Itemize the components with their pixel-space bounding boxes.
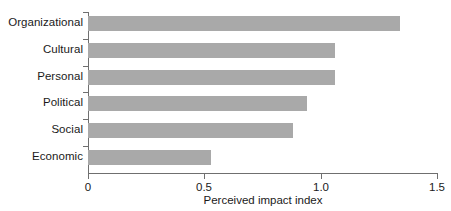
bar-social — [88, 123, 293, 138]
x-axis-tick-1.0 — [321, 174, 322, 179]
x-axis-tick-0 — [88, 174, 89, 179]
y-axis-label-economic: Economic — [1, 150, 83, 162]
bar-personal — [88, 70, 335, 85]
x-axis-tick-label-0.5: 0.5 — [196, 181, 212, 193]
plot-area — [88, 12, 437, 173]
x-axis-tick-0.5 — [204, 174, 205, 179]
bar-economic — [88, 150, 211, 165]
y-axis-label-political: Political — [1, 96, 83, 108]
y-axis-label-social: Social — [1, 123, 83, 135]
x-axis-title: Perceived impact index — [88, 194, 438, 206]
y-axis-label-organizational: Organizational — [1, 16, 83, 28]
y-axis-category-labels: Organizational Cultural Personal Politic… — [0, 12, 83, 173]
bar-cultural — [88, 43, 335, 58]
bar-political — [88, 96, 307, 111]
bar-chart: Organizational Cultural Personal Politic… — [0, 0, 451, 211]
bar-organizational — [88, 16, 400, 31]
y-axis-label-cultural: Cultural — [1, 43, 83, 55]
x-axis-tick-label-1.5: 1.5 — [429, 181, 445, 193]
x-axis-tick-label-1.0: 1.0 — [313, 181, 329, 193]
x-axis-tick-label-0: 0 — [85, 181, 91, 193]
x-axis-line — [88, 173, 438, 174]
y-axis-label-personal: Personal — [1, 70, 83, 82]
x-axis-tick-1.5 — [437, 174, 438, 179]
